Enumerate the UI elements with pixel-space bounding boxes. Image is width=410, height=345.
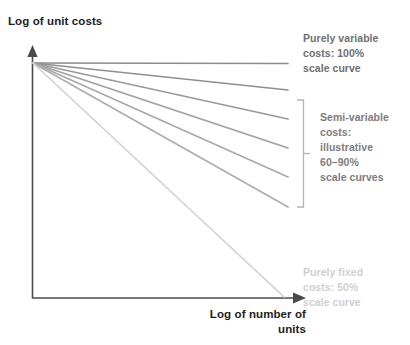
scale-curve-70 (33, 63, 288, 177)
y-axis-label: Log of unit costs (8, 14, 102, 29)
scale-curve-80 (33, 63, 288, 119)
annotation-purely-variable: Purely variable costs: 100% scale curve (303, 31, 378, 76)
scale-curve-50 (33, 63, 284, 297)
y-axis-arrowhead (27, 45, 37, 57)
scale-curve-100 (33, 63, 288, 64)
annotation-semi-variable: Semi-variable costs: illustrative 60–90%… (320, 110, 389, 185)
x-axis-label: Log of number of units (196, 307, 306, 337)
chart-canvas: Log of unit costs Log of number of units… (0, 0, 410, 345)
semi-variable-bracket (297, 100, 310, 207)
annotation-purely-fixed: Purely fixed costs: 50% scale curve (303, 265, 363, 310)
scale-curves-group (33, 63, 288, 297)
